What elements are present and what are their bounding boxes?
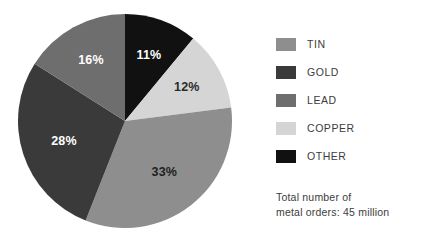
legend-label: COPPER <box>307 123 355 134</box>
pie-chart-svg: 11%12%33%28%16% <box>18 14 232 228</box>
legend-label: TIN <box>307 39 326 50</box>
pie-slice-label-tin: 33% <box>152 165 178 179</box>
legend-swatch-gold <box>276 66 296 79</box>
pie-slice-label-gold: 28% <box>51 134 77 148</box>
caption-line-2: metal orders: 45 million <box>276 205 432 220</box>
legend-item-copper[interactable]: COPPER <box>276 120 426 136</box>
legend-label: LEAD <box>307 95 337 106</box>
legend-swatch-lead <box>276 94 296 107</box>
legend-label: GOLD <box>307 67 339 78</box>
pie-chart-figure: 11%12%33%28%16% TINGOLDLEADCOPPEROTHER T… <box>0 0 432 242</box>
legend-swatch-other <box>276 150 296 163</box>
legend-swatch-tin <box>276 38 296 51</box>
pie-slice-label-other: 11% <box>136 48 161 62</box>
pie-slice-label-copper: 12% <box>174 80 200 94</box>
legend-item-other[interactable]: OTHER <box>276 148 426 164</box>
legend-item-gold[interactable]: GOLD <box>276 64 426 80</box>
legend-swatch-copper <box>276 122 296 135</box>
chart-caption: Total number of metal orders: 45 million <box>276 190 432 219</box>
legend-item-lead[interactable]: LEAD <box>276 92 426 108</box>
legend: TINGOLDLEADCOPPEROTHER <box>276 36 426 176</box>
legend-label: OTHER <box>307 151 347 162</box>
pie-slice-group <box>18 14 232 228</box>
pie-chart: 11%12%33%28%16% <box>18 14 232 228</box>
legend-item-tin[interactable]: TIN <box>276 36 426 52</box>
pie-slice-label-lead: 16% <box>78 53 104 67</box>
caption-line-1: Total number of <box>276 190 432 205</box>
